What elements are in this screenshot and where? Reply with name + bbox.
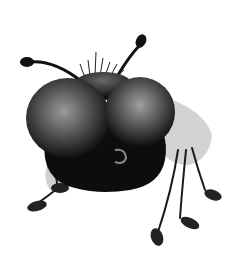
fly-drawing [0, 0, 244, 267]
eye-right [105, 77, 175, 147]
feet [26, 183, 223, 248]
eye-left [26, 78, 110, 158]
fly-illustration: Grayscale illustration of a cartoon fly … [0, 0, 244, 267]
